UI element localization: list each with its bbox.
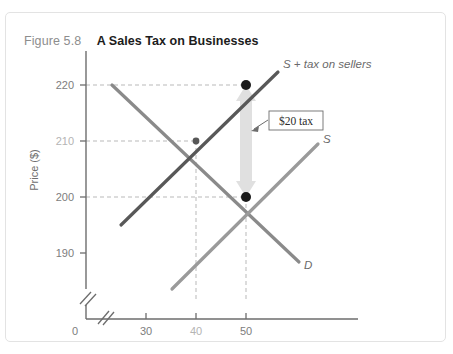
curve-label-d: D bbox=[304, 259, 312, 271]
supply-plus-tax-curve bbox=[121, 72, 278, 225]
point-initial-equilibrium bbox=[193, 138, 200, 145]
figure-card: Figure 5.8 A Sales Tax on Businesses bbox=[5, 12, 446, 342]
tax-callout-arrowhead-icon bbox=[251, 126, 259, 132]
y-tick-label-190: 190 bbox=[56, 247, 74, 259]
guide-lines bbox=[86, 85, 246, 301]
point-seller-price bbox=[241, 192, 251, 202]
axis-break-marks-icon bbox=[80, 292, 114, 325]
curve-label-s: S bbox=[323, 133, 331, 145]
x-tick-label-40: 40 bbox=[190, 325, 202, 337]
y-tick-label-200: 200 bbox=[56, 191, 74, 203]
x-axis-title: Quantity bbox=[194, 342, 235, 343]
tax-callout-leader bbox=[254, 120, 268, 129]
y-tick-label-210: 210 bbox=[56, 135, 74, 147]
y-axis-title: Price ($) bbox=[28, 149, 40, 191]
x-break-slash-1 bbox=[98, 311, 109, 324]
point-buyer-price bbox=[241, 80, 251, 90]
x-ticks bbox=[146, 313, 246, 319]
tax-callout-label: $20 tax bbox=[279, 115, 313, 127]
x-tick-label-50: 50 bbox=[240, 325, 252, 337]
curve-label-s-plus-tax: S + tax on sellers bbox=[283, 58, 372, 70]
y-ticks bbox=[80, 85, 86, 253]
y-tick-label-220: 220 bbox=[56, 79, 74, 91]
supply-demand-chart: 220 210 200 190 0 30 40 50 Quantity Pric… bbox=[6, 13, 447, 343]
origin-label: 0 bbox=[72, 325, 78, 337]
x-tick-label-30: 30 bbox=[140, 325, 152, 337]
